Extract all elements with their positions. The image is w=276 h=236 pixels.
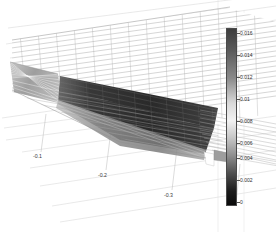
x-axis-tick-label-3: -0.3	[164, 192, 173, 198]
colorbar-tick-label-0-004: 0.004	[240, 155, 253, 161]
colorbar-tick-label-0-01: 0.01	[240, 96, 250, 102]
figure-canvas: -0.1 -0.2 -0.3 0.016 0.014 0.012 0.01 0.…	[0, 0, 276, 236]
colorbar-tick-label-0-012: 0.012	[240, 74, 253, 80]
colorbar-tick-label-0-014: 0.014	[240, 52, 253, 58]
colorbar-tick-label-0-006: 0.006	[240, 140, 253, 146]
colorbar-tick-label-0-002: 0.002	[240, 177, 253, 183]
x-axis-tick-label-2: -0.2	[98, 172, 107, 178]
colorbar-tick-label-0-016: 0.016	[240, 30, 253, 36]
colorbar-gradient	[226, 28, 237, 206]
colorbar-tick-label-0-008: 0.008	[240, 118, 253, 124]
x-axis-tick-label-1: -0.1	[33, 153, 42, 159]
colorbar[interactable]: 0.016 0.014 0.012 0.01 0.008 0.006 0.004…	[226, 28, 237, 206]
colorbar-tick-label-0: 0	[240, 199, 243, 205]
